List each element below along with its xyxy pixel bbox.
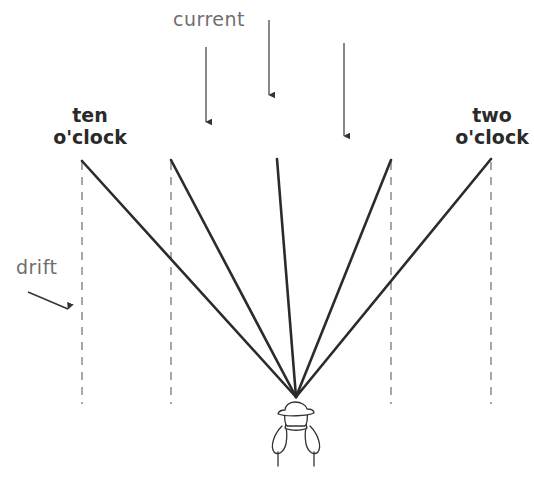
cast-line-one-oclock xyxy=(296,160,391,397)
two-oclock-label: two o'clock xyxy=(446,104,534,148)
ten-oclock-label-line2: o'clock xyxy=(44,126,136,148)
current-label: current xyxy=(173,8,245,30)
angler-figure-icon xyxy=(272,402,319,466)
current-arrows xyxy=(206,20,344,136)
two-oclock-label-line1: two xyxy=(446,104,534,126)
two-oclock-label-line2: o'clock xyxy=(446,126,534,148)
cast-line-twelve-oclock xyxy=(277,159,296,397)
drift-arrow-icon xyxy=(28,292,68,309)
ten-oclock-label: ten o'clock xyxy=(44,104,136,148)
cast-lines xyxy=(82,159,491,397)
cast-line-two-oclock xyxy=(296,159,491,397)
ten-oclock-label-line1: ten xyxy=(44,104,136,126)
drift-label: drift xyxy=(16,256,57,278)
